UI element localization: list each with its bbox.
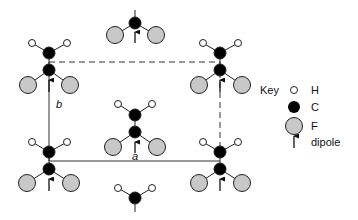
- carbon-atom: [214, 64, 226, 76]
- hydrogen-atom: [235, 139, 242, 146]
- fluorine-atom: [148, 27, 165, 44]
- carbon-atom: [214, 146, 226, 158]
- fluorine-atom: [234, 175, 251, 192]
- hydrogen-atom: [200, 40, 207, 47]
- hydrogen-atom: [64, 139, 71, 146]
- fluorine-atom: [107, 27, 124, 44]
- fluorine-atom: [191, 77, 208, 94]
- legend-title: Key: [260, 84, 279, 96]
- carbon-atom: [43, 163, 55, 175]
- hydrogen-atom: [115, 101, 122, 108]
- carbon-atom: [214, 47, 226, 59]
- fluorine-atom: [191, 175, 208, 192]
- hydrogen-atom: [235, 40, 242, 47]
- carbon-atom: [43, 146, 55, 158]
- molecule-top-left: [20, 40, 79, 94]
- molecule-bottom-left: [19, 139, 80, 192]
- carbon-atom: [214, 163, 226, 175]
- fluorine-atom: [234, 77, 251, 94]
- hydrogen-atom: [29, 139, 36, 146]
- fluorine-atom: [149, 139, 166, 156]
- carbon-atom: [43, 47, 55, 59]
- hydrogen-atom: [149, 185, 156, 192]
- fluorine-atom: [62, 77, 79, 94]
- molecule-center: [105, 101, 166, 156]
- molecule-top-center: [107, 10, 165, 44]
- fluorine-atom: [105, 139, 122, 156]
- legend-label-h: H: [311, 84, 319, 96]
- fluorine-atom: [63, 175, 80, 192]
- fluorine-atom: [20, 77, 37, 94]
- legend: Key H C F dipole: [260, 84, 340, 148]
- carbon-atom: [129, 126, 141, 138]
- carbon-atom: [129, 109, 141, 121]
- hydrogen-atom: [149, 101, 156, 108]
- axis-label-b: b: [56, 98, 62, 110]
- molecule-bottom-right: [191, 139, 251, 192]
- legend-label-dipole: dipole: [311, 136, 340, 148]
- molecule-top-right: [191, 40, 251, 94]
- molecule-bottom-center: [115, 185, 156, 213]
- hydrogen-atom: [64, 40, 71, 47]
- legend-label-c: C: [311, 101, 319, 113]
- legend-label-f: F: [311, 120, 318, 132]
- crystal-structure-diagram: b a: [0, 0, 358, 220]
- fluorine-atom: [19, 175, 36, 192]
- hydrogen-atom: [200, 139, 207, 146]
- legend-carbon-icon: [288, 101, 300, 113]
- carbon-atom: [129, 192, 141, 204]
- carbon-atom: [43, 64, 55, 76]
- legend-fluorine-icon: [286, 118, 303, 135]
- legend-hydrogen-icon: [291, 87, 298, 94]
- carbon-atom: [129, 17, 141, 29]
- hydrogen-atom: [29, 40, 36, 47]
- hydrogen-atom: [115, 185, 122, 192]
